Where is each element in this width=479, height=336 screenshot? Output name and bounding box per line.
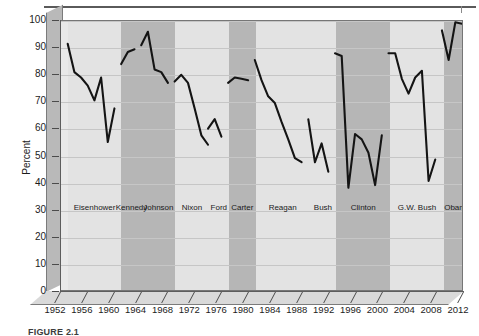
presidency-label-clinton: Clinton xyxy=(351,203,376,212)
y-tick-label-0: 0 xyxy=(12,286,46,296)
y-tick-label-90: 90 xyxy=(12,42,46,52)
presidency-label-obama: Obama xyxy=(444,203,463,212)
y-tick-mark-100 xyxy=(52,20,59,21)
y-tick-mark-90 xyxy=(52,47,59,48)
y-tick-mark-0 xyxy=(52,291,59,292)
series-line-kennedy xyxy=(121,49,134,64)
series-line-nixon xyxy=(175,75,208,145)
y-tick-label-20: 20 xyxy=(12,232,46,242)
y-tick-mark-20 xyxy=(52,237,59,238)
y-tick-label-70: 70 xyxy=(12,96,46,106)
presidency-label-reagan: Reagan xyxy=(269,203,297,212)
y-tick-label-100: 100 xyxy=(12,15,46,25)
y-tick-label-10: 10 xyxy=(12,259,46,269)
y-tick-mark-60 xyxy=(52,128,59,129)
y-tick-mark-50 xyxy=(52,156,59,157)
series-line-bush xyxy=(308,119,328,171)
series-line-obama xyxy=(442,22,462,60)
series-line-g-w-bush xyxy=(388,53,435,181)
presidency-label-ford: Ford xyxy=(211,203,227,212)
series-line-clinton xyxy=(335,53,382,188)
presidency-label-nixon: Nixon xyxy=(182,203,202,212)
series-line-eisenhower xyxy=(68,44,115,142)
x-tick-label-2012: 2012 xyxy=(438,304,478,315)
series-line-reagan xyxy=(255,60,302,162)
x-axis-line xyxy=(60,291,464,292)
presidency-label-johnson: Johnson xyxy=(143,203,173,212)
series-line-carter xyxy=(228,77,248,82)
y-tick-mark-80 xyxy=(52,74,59,75)
plot-region: EisenhowerKennedyJohnsonNixonFordCarterR… xyxy=(60,20,463,291)
presidency-label-bush: Bush xyxy=(314,203,332,212)
series-lines xyxy=(61,21,462,290)
y-tick-label-80: 80 xyxy=(12,69,46,79)
y-tick-mark-10 xyxy=(52,264,59,265)
presidency-label-carter: Carter xyxy=(231,203,253,212)
chart-area: EisenhowerKennedyJohnsonNixonFordCarterR… xyxy=(0,0,479,336)
presidency-label-eisenhower: Eisenhower xyxy=(74,203,116,212)
y-tick-mark-30 xyxy=(52,210,59,211)
y-tick-mark-70 xyxy=(52,101,59,102)
figure-page: EisenhowerKennedyJohnsonNixonFordCarterR… xyxy=(0,0,479,336)
y-tick-mark-40 xyxy=(52,183,59,184)
y-tick-label-30: 30 xyxy=(12,205,46,215)
figure-caption: FIGURE 2.1 xyxy=(28,327,79,336)
y-axis-title: Percent xyxy=(21,118,32,198)
series-line-johnson xyxy=(141,32,168,83)
y-axis-line xyxy=(60,20,61,292)
series-line-ford xyxy=(208,119,221,136)
presidency-label-g-w-bush: G.W. Bush xyxy=(398,203,436,212)
